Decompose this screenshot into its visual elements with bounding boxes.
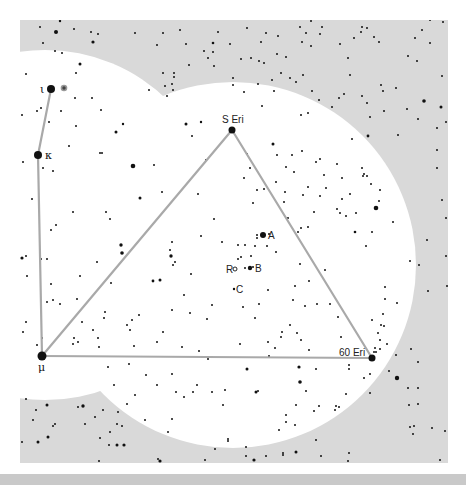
star (116, 423, 118, 425)
star (441, 199, 443, 201)
star (97, 33, 99, 35)
star (22, 331, 24, 333)
star (252, 202, 254, 204)
star (299, 26, 301, 28)
star (255, 391, 258, 394)
star (20, 256, 23, 259)
star (356, 10, 358, 12)
star (219, 18, 221, 20)
star (248, 11, 250, 13)
star (173, 72, 175, 74)
star (211, 304, 213, 306)
star (265, 455, 267, 457)
star (172, 264, 174, 266)
star (266, 245, 268, 247)
star (138, 314, 140, 316)
star (42, 42, 44, 44)
star (153, 164, 155, 166)
star (413, 425, 415, 427)
star (308, 280, 310, 282)
star (77, 406, 79, 408)
star (371, 231, 373, 233)
star (348, 452, 350, 454)
named-star-iota (47, 85, 55, 93)
star (25, 255, 27, 257)
star (139, 197, 142, 200)
star (122, 443, 125, 446)
star (102, 409, 104, 411)
star (367, 135, 370, 138)
star (158, 459, 161, 462)
star (355, 212, 357, 214)
star (378, 41, 380, 43)
star (371, 319, 373, 321)
star (446, 285, 448, 287)
star (345, 393, 347, 395)
star (240, 58, 242, 60)
star (254, 317, 256, 319)
star (226, 9, 228, 11)
star (25, 321, 27, 323)
star (196, 384, 198, 386)
star (369, 373, 371, 375)
comparison-label-B: B (255, 263, 262, 274)
star (81, 404, 84, 407)
star (190, 273, 192, 275)
comparison-star-B (248, 266, 252, 270)
star (295, 451, 298, 454)
star (116, 444, 119, 447)
star (321, 26, 323, 28)
star (73, 28, 75, 30)
star (108, 444, 110, 446)
star (258, 60, 260, 62)
star (121, 425, 123, 427)
star (257, 83, 259, 85)
star (265, 32, 267, 34)
star (192, 391, 194, 393)
star (313, 211, 315, 213)
star (331, 106, 333, 108)
star (298, 380, 302, 384)
star (361, 95, 363, 97)
star (52, 425, 54, 427)
comparison-star-A (260, 232, 266, 238)
star (319, 195, 321, 197)
star (35, 409, 37, 411)
star-chart: ικμS Eri60 Eri ABCR (0, 0, 466, 485)
star (96, 261, 98, 263)
star (277, 35, 279, 37)
star (237, 258, 239, 260)
star (348, 368, 350, 370)
star (99, 152, 101, 154)
star (272, 143, 275, 146)
star (374, 206, 379, 211)
star (315, 439, 317, 441)
star (186, 7, 188, 9)
star (421, 29, 423, 31)
star (75, 72, 77, 74)
star (98, 460, 100, 462)
star (315, 368, 317, 370)
star (313, 410, 315, 412)
star (240, 256, 242, 258)
star (378, 200, 380, 202)
star (254, 245, 256, 247)
star (382, 313, 384, 315)
star (365, 245, 367, 247)
named-star-s_eri (229, 127, 236, 134)
star (84, 423, 86, 425)
star (273, 90, 275, 92)
star (316, 303, 318, 305)
star (242, 306, 244, 308)
star (301, 41, 303, 43)
star (120, 251, 124, 255)
star (300, 339, 302, 341)
star (36, 110, 38, 112)
star (445, 121, 447, 123)
star (291, 154, 293, 156)
star (324, 269, 326, 271)
star (267, 289, 269, 291)
star (79, 63, 82, 66)
star (416, 60, 418, 62)
star (39, 26, 41, 28)
